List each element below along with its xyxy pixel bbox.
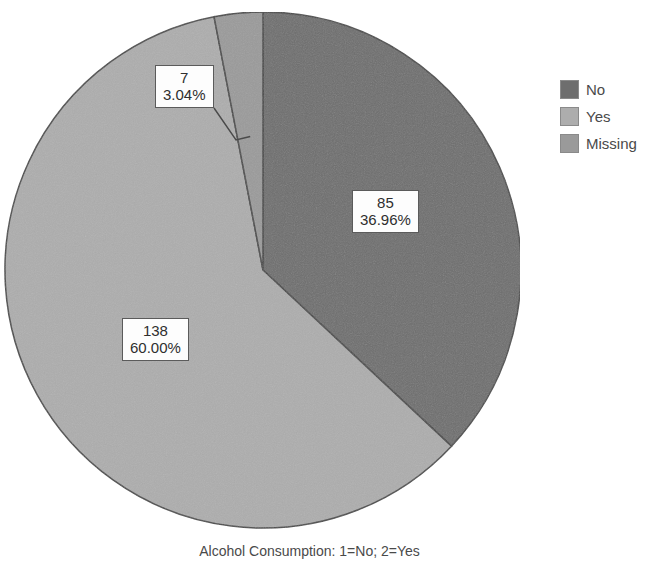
legend-label-missing: Missing <box>586 135 637 152</box>
chart-legend: No Yes Missing <box>560 76 653 157</box>
data-label-missing-value: 7 <box>163 69 206 86</box>
data-label-yes-percent: 60.00% <box>130 339 181 356</box>
legend-swatch-missing-icon <box>560 134 579 153</box>
legend-item-missing[interactable]: Missing <box>560 130 653 156</box>
data-label-missing: 7 3.04% <box>155 65 214 108</box>
legend-swatch-yes-icon <box>560 107 579 126</box>
legend-item-no[interactable]: No <box>560 76 653 102</box>
data-label-no-percent: 36.96% <box>360 211 411 228</box>
chart-caption: Alcohol Consumption: 1=No; 2=Yes <box>0 542 653 560</box>
data-label-yes: 138 60.00% <box>122 318 189 361</box>
data-label-no-value: 85 <box>360 194 411 211</box>
chart-caption-text: Alcohol Consumption: 1=No; 2=Yes <box>199 543 420 559</box>
data-label-no: 85 36.96% <box>352 190 419 233</box>
pie-chart-figure: 7 3.04% 85 36.96% 138 60.00% No Yes Miss… <box>0 0 653 566</box>
legend-item-yes[interactable]: Yes <box>560 103 653 129</box>
legend-swatch-no-icon <box>560 80 579 99</box>
legend-label-no: No <box>586 81 605 98</box>
data-label-missing-percent: 3.04% <box>163 86 206 103</box>
data-label-yes-value: 138 <box>130 322 181 339</box>
pie-chart-canvas <box>0 0 520 540</box>
legend-label-yes: Yes <box>586 108 610 125</box>
